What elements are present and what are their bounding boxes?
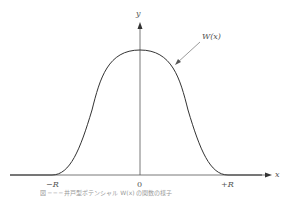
label-pointer-arrow <box>177 42 200 63</box>
y-axis-arrow-icon <box>138 22 143 29</box>
w-curve <box>10 50 262 175</box>
curve-label: W(x) <box>202 33 221 41</box>
figure-caption: 図 ─ ─ ─ 井戸型ポテンシャル W(x) の関数の様子 <box>40 188 250 198</box>
x-axis-arrow-icon <box>265 173 272 178</box>
x-axis-label: x <box>275 171 280 179</box>
y-axis-label: y <box>136 10 141 18</box>
potential-diagram <box>0 0 286 200</box>
